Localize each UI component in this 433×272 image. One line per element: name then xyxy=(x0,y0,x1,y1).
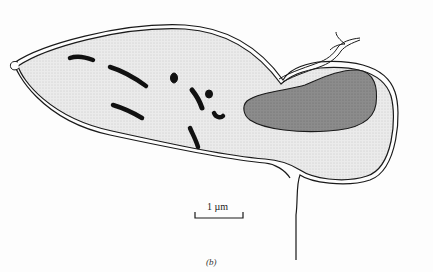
scale-bar-label: 1 µm xyxy=(207,201,228,212)
figure: 1 µm (b) xyxy=(0,0,433,272)
scale-bar xyxy=(195,212,243,218)
panel-label: (b) xyxy=(206,257,217,267)
flagellum-tip xyxy=(10,61,19,69)
cell-diagram xyxy=(0,0,433,272)
